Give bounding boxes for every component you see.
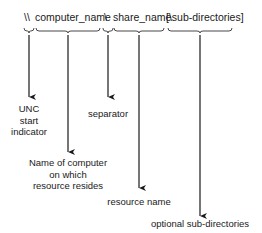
unc-path-diagram: \\ computer_name \ share_name [\sub-dire… (0, 0, 262, 233)
brace-share (114, 28, 164, 33)
computer-name-label: Name of computer on which resource resid… (26, 157, 110, 192)
brace-separator (103, 28, 113, 33)
resource-name-label: resource name (104, 196, 174, 208)
separator-label: separator (85, 108, 131, 120)
brace-computer (36, 28, 100, 33)
optional-subdirs-label: optional sub-directories (150, 218, 250, 230)
unc-start-label: UNC start indicator (9, 103, 49, 138)
brace-subdirs (168, 28, 232, 33)
braces (24, 28, 232, 33)
brace-unc (24, 28, 34, 33)
